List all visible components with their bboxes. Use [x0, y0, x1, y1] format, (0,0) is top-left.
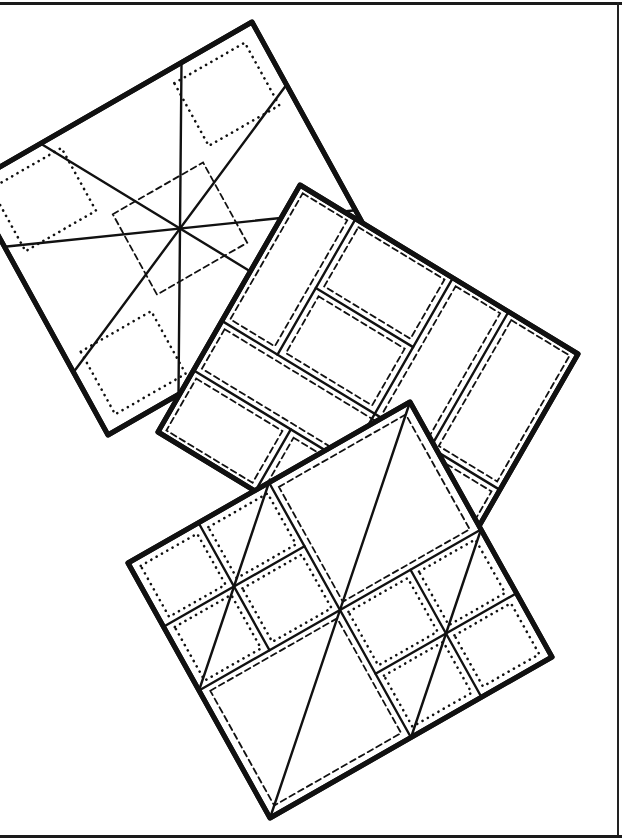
quilt-illustration [0, 0, 622, 840]
